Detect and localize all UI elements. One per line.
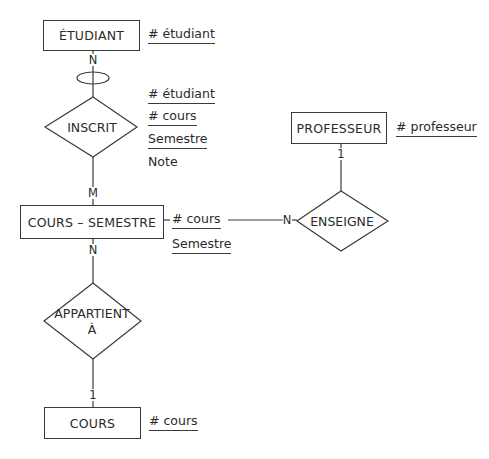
entity-etudiant-label: ÉTUDIANT	[59, 28, 124, 43]
cardinality-etudiant-inscrit: N	[89, 54, 98, 66]
etudiant-key-attribute: # étudiant	[148, 26, 215, 44]
inscrit-attr-semestre: Semestre	[148, 131, 207, 149]
entity-cours: COURS	[44, 407, 141, 439]
inscrit-attr-etudiant: # étudiant	[148, 86, 215, 104]
entity-etudiant: ÉTUDIANT	[43, 20, 140, 51]
cardinality-cours-semestre-enseigne: N	[283, 214, 292, 226]
cardinality-cours-semestre-appartient: N	[89, 244, 98, 256]
cardinality-professeur-enseigne: 1	[337, 148, 344, 160]
appartient-label-line1: APPARTIENT	[54, 306, 129, 322]
entity-cours-semestre: COURS – SEMESTRE	[20, 205, 164, 239]
inscrit-attr-cours: # cours	[148, 108, 197, 126]
professeur-key-attribute: # professeur	[396, 119, 477, 137]
cours-semestre-key-cours: # cours	[172, 211, 221, 229]
cours-key-attribute: # cours	[149, 413, 198, 431]
relationship-enseigne-label: ENSEIGNE	[310, 214, 374, 230]
cardinality-inscrit-cours-semestre: M	[88, 187, 98, 199]
inscrit-attr-note: Note	[148, 154, 178, 170]
entity-cours-semestre-label: COURS – SEMESTRE	[28, 215, 156, 230]
appartient-label-line2: À	[54, 322, 129, 338]
cardinality-appartient-cours: 1	[89, 389, 96, 401]
entity-professeur: PROFESSEUR	[291, 112, 387, 144]
cours-semestre-key-semestre: Semestre	[172, 236, 231, 254]
relationship-appartient-label: APPARTIENT À	[54, 306, 129, 338]
entity-professeur-label: PROFESSEUR	[297, 121, 382, 136]
relationship-inscrit-label: INSCRIT	[67, 120, 117, 136]
entity-cours-label: COURS	[70, 416, 115, 431]
